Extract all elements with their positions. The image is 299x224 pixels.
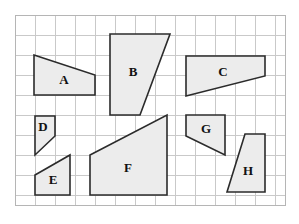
quadrilateral-label-h: H bbox=[243, 163, 253, 178]
quadrilateral-label-f: F bbox=[124, 160, 132, 175]
shapes-group: ABCDEFGH bbox=[34, 34, 265, 195]
quadrilateral-label-d: D bbox=[38, 119, 47, 134]
quadrilateral-b bbox=[110, 34, 170, 115]
quadrilateral-label-e: E bbox=[49, 172, 58, 187]
quadrilateral-label-b: B bbox=[129, 64, 138, 79]
quadrilateral-label-c: C bbox=[218, 64, 227, 79]
quadrilateral-f bbox=[90, 115, 167, 195]
quadrilateral-figure: ABCDEFGH bbox=[0, 0, 299, 224]
quadrilateral-label-a: A bbox=[59, 72, 69, 87]
quadrilateral-label-g: G bbox=[201, 121, 211, 136]
shape-canvas: ABCDEFGH bbox=[0, 0, 299, 224]
